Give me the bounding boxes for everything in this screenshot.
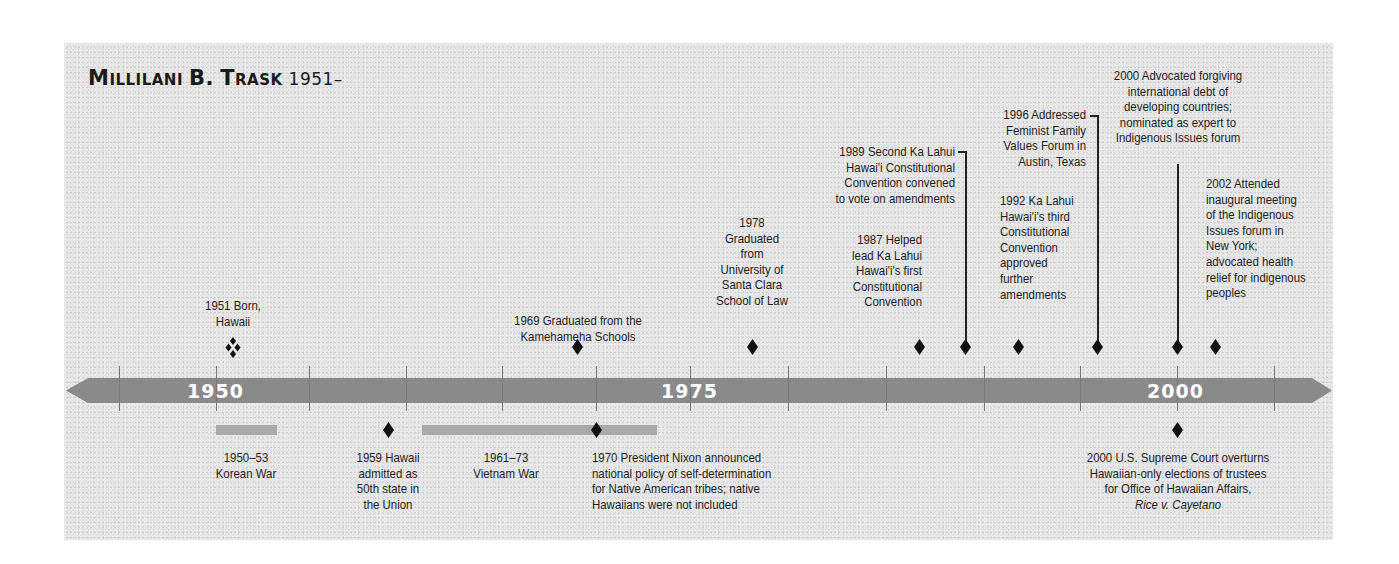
axis-tick (1080, 366, 1081, 411)
axis-tick (984, 366, 985, 411)
diamond-marker-icon (1013, 339, 1024, 355)
event-korean-war: 1950–53 Korean War (194, 450, 297, 481)
event-1970-nixon-policy: 1970 President Nixon announced national … (592, 450, 816, 512)
event-2002-indigenous-forum: 2002 Attended inaugural meeting of the I… (1206, 176, 1318, 301)
axis-label-1975: 1975 (661, 380, 718, 402)
axis-label-2000: 2000 (1147, 380, 1204, 402)
event-1992-third-convention: 1992 Ka Lahui Hawai'i's third Constituti… (1000, 193, 1086, 302)
event-1987-first-convention: 1987 Helped lead Ka Lahui Hawai'i's firs… (836, 232, 922, 310)
leader-line (1097, 115, 1099, 341)
diamond-marker-icon (914, 339, 925, 355)
diamond-marker-icon (591, 422, 602, 438)
event-1951-born: 1951 Born, Hawaii (181, 298, 284, 329)
span-korean-war (216, 425, 277, 435)
diamond-cluster-icon (225, 337, 241, 359)
leader-line (965, 151, 967, 341)
axis-tick (119, 366, 120, 411)
event-1996-feminist-forum: 1996 Addressed Feminist Family Values Fo… (995, 107, 1086, 169)
axis-tick (886, 366, 887, 411)
axis-tick (502, 366, 503, 411)
axis-tick (1274, 366, 1275, 411)
event-1959-statehood: 1959 Hawaii admitted as 50th state in th… (345, 450, 431, 512)
diamond-marker-icon (1092, 339, 1103, 355)
axis-tick (406, 366, 407, 411)
case-name: Rice v. Cayetano (1135, 497, 1221, 512)
axis-tick (309, 366, 310, 411)
diamond-marker-icon (960, 339, 971, 355)
diamond-marker-icon (747, 339, 758, 355)
diamond-marker-icon (383, 422, 394, 438)
timeline-title: MILLILANI B. TRASK1951– (88, 66, 343, 90)
axis-label-1950: 1950 (187, 380, 244, 402)
event-1989-second-convention: 1989 Second Ka Lahui Hawai'i Constitutio… (817, 144, 955, 206)
diamond-marker-icon (1172, 422, 1183, 438)
event-2000-supreme-court: 2000 U.S. Supreme Court overturns Hawaii… (1075, 450, 1281, 512)
event-2000-debt-forgiveness: 2000 Advocated forgiving international d… (1109, 68, 1247, 146)
axis-tick (596, 366, 597, 411)
diamond-marker-icon (1210, 339, 1221, 355)
diamond-marker-icon (1172, 339, 1183, 355)
event-vietnam-war: 1961–73 Vietnam War (463, 450, 549, 481)
event-1978-law-school: 1978 Graduated from University of Santa … (709, 215, 795, 309)
leader-line (1177, 164, 1179, 341)
span-vietnam-war (422, 425, 657, 435)
diamond-marker-icon (572, 339, 583, 355)
axis-tick (788, 366, 789, 411)
